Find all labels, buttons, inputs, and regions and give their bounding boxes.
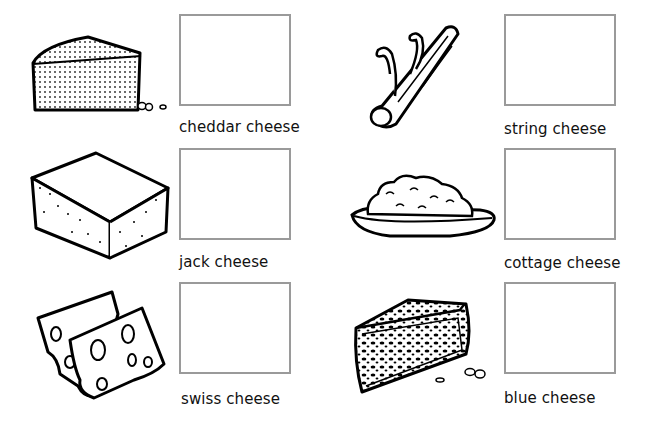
answer-box-jack[interactable] xyxy=(179,148,291,240)
swiss-slices-icon xyxy=(34,288,169,404)
string-cheese-icon xyxy=(368,14,488,133)
blue-wedge-icon xyxy=(352,292,502,396)
answer-box-string[interactable] xyxy=(504,14,616,106)
answer-box-swiss[interactable] xyxy=(179,282,291,374)
label-jack: jack cheese xyxy=(179,253,268,271)
label-swiss: swiss cheese xyxy=(181,390,280,408)
label-blue: blue cheese xyxy=(504,389,596,407)
label-cottage: cottage cheese xyxy=(504,254,621,272)
answer-box-cheddar[interactable] xyxy=(179,14,291,106)
cottage-bowl-icon xyxy=(350,170,498,249)
answer-box-blue[interactable] xyxy=(504,282,616,374)
cheddar-wedge-icon xyxy=(28,30,173,119)
label-cheddar: cheddar cheese xyxy=(179,118,300,136)
jack-block-icon xyxy=(28,150,173,264)
label-string: string cheese xyxy=(504,120,606,138)
answer-box-cottage[interactable] xyxy=(504,148,616,240)
